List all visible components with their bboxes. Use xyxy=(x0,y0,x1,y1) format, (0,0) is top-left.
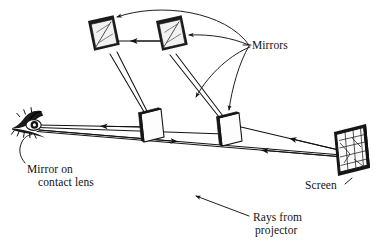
label-rays-from-projector-line2: projector xyxy=(253,224,302,237)
leader-mirrors-to-mid-left xyxy=(196,47,250,97)
ray-from-projector-arrowhead xyxy=(262,150,344,157)
leader-screen xyxy=(345,178,352,184)
mirror-mid-right xyxy=(217,112,242,146)
mirror-mid-left xyxy=(139,108,164,142)
leader-mirrors-to-top-right xyxy=(189,35,249,45)
label-screen: Screen xyxy=(305,179,337,192)
ray-top-right-to-mid-right-b xyxy=(170,55,223,122)
leader-rays-from-projector xyxy=(196,196,249,216)
label-mirrors: Mirrors xyxy=(252,39,288,52)
ray-mid-left-to-eye-arrowhead xyxy=(101,126,146,127)
ray-path-group xyxy=(37,41,344,157)
label-mirror-on-contact-lens-line2: contact lens xyxy=(27,176,94,189)
leader-mirrors-to-mid-right xyxy=(229,46,249,110)
leader-contact-lens xyxy=(20,135,32,164)
label-rays-from-projector-line1: Rays from xyxy=(253,211,302,223)
projection-screen xyxy=(334,124,370,176)
mirror-top-right xyxy=(156,15,188,51)
label-mirror-on-contact-lens: Mirror on contact lens xyxy=(27,163,94,189)
label-mirror-on-contact-lens-line1: Mirror on xyxy=(27,163,73,175)
ray-top-right-to-mid-right xyxy=(176,54,226,120)
eye-with-contact-lens-mirror xyxy=(11,107,45,138)
mirror-top-left xyxy=(88,15,120,51)
diagram-canvas xyxy=(0,0,379,249)
label-rays-from-projector: Rays from projector xyxy=(253,211,302,237)
ray-mid-right-to-eye xyxy=(38,128,224,135)
optical-ray-diagram: Mirrors Screen Mirror on contact lens Ra… xyxy=(0,0,379,249)
